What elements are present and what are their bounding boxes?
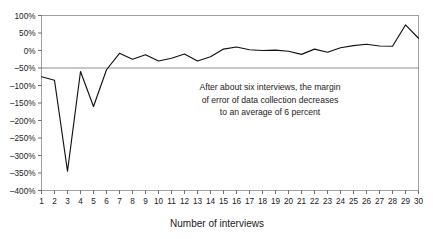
x-tick-label: 16 xyxy=(232,197,242,206)
y-axis-label-group: 100%50%0%–50%–100%–150%–200%–250%–300%–3… xyxy=(10,12,36,196)
y-tick-label: –50% xyxy=(15,64,36,73)
x-tick-label: 29 xyxy=(401,197,411,206)
x-tick-label: 3 xyxy=(65,197,70,206)
x-tick-label: 28 xyxy=(388,197,398,206)
x-tick-label: 25 xyxy=(349,197,359,206)
x-tick-label: 30 xyxy=(414,197,424,206)
x-tick-label: 20 xyxy=(284,197,294,206)
x-tick-label: 11 xyxy=(167,197,176,206)
y-tick-label: –350% xyxy=(10,169,36,178)
annotation-line: of error of data collection decreases xyxy=(202,95,339,105)
x-tick-label: 19 xyxy=(271,197,281,206)
x-tick-label: 10 xyxy=(154,197,164,206)
y-tick-label: 100% xyxy=(15,12,36,21)
x-tick-label: 8 xyxy=(130,197,135,206)
x-tick-label: 18 xyxy=(258,197,268,206)
x-tick-label: 9 xyxy=(143,197,148,206)
x-tick-label: 26 xyxy=(362,197,372,206)
x-tick-label: 15 xyxy=(219,197,229,206)
chart-figure: 100%50%0%–50%–100%–150%–200%–250%–300%–3… xyxy=(0,0,433,239)
x-tick-label: 24 xyxy=(336,197,346,206)
x-tick-label: 13 xyxy=(193,197,203,206)
x-axis-label-group: 1234567891011121314151617181920212223242… xyxy=(39,197,423,206)
x-tick-label: 21 xyxy=(297,197,307,206)
y-tick-label: 50% xyxy=(19,29,35,38)
x-tick-label: 5 xyxy=(91,197,96,206)
y-tick-label: –150% xyxy=(10,99,36,108)
y-tick-label: 0% xyxy=(24,47,36,56)
x-tick-label: 6 xyxy=(104,197,109,206)
x-tick-label: 2 xyxy=(52,197,57,206)
x-tick-label: 12 xyxy=(180,197,190,206)
y-tick-label: –300% xyxy=(10,152,36,161)
y-tick-label: –250% xyxy=(10,134,36,143)
y-tick-label: –400% xyxy=(10,187,36,196)
x-axis-tick-group xyxy=(42,191,419,195)
line-chart: 100%50%0%–50%–100%–150%–200%–250%–300%–3… xyxy=(0,0,433,239)
y-axis-tick-group xyxy=(38,16,42,191)
x-tick-label: 22 xyxy=(310,197,320,206)
y-tick-label: –100% xyxy=(10,82,36,91)
x-tick-label: 27 xyxy=(375,197,385,206)
x-tick-label: 23 xyxy=(323,197,333,206)
x-tick-label: 17 xyxy=(245,197,255,206)
x-tick-label: 14 xyxy=(206,197,216,206)
annotation-line: After about six interviews, the margin xyxy=(200,82,341,92)
x-tick-label: 4 xyxy=(78,197,83,206)
y-tick-label: –200% xyxy=(10,117,36,126)
annotation-line: to an average of 6 percent xyxy=(220,107,321,117)
x-tick-label: 7 xyxy=(117,197,122,206)
x-axis-title: Number of interviews xyxy=(170,218,264,229)
chart-annotation: After about six interviews, the marginof… xyxy=(200,82,341,117)
x-tick-label: 1 xyxy=(39,197,44,206)
